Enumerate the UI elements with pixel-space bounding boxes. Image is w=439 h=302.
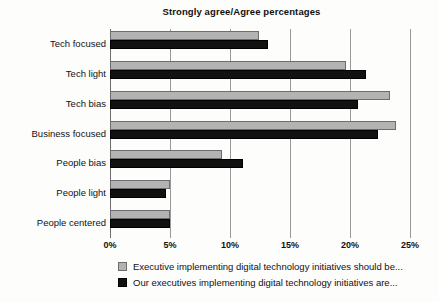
category-label: People centered (1, 218, 106, 228)
category-label: People light (1, 188, 106, 198)
bar (110, 40, 268, 49)
bar (110, 189, 166, 198)
bar (110, 150, 222, 159)
bar (110, 159, 243, 168)
bar-group (110, 178, 410, 208)
legend-swatch-icon (118, 262, 127, 271)
bar (110, 70, 366, 79)
bar (110, 121, 396, 130)
plot-area (110, 29, 410, 238)
legend-label: Our executives implementing digital tech… (133, 277, 398, 288)
gridline (410, 29, 411, 238)
legend-label: Executive implementing digital technolog… (133, 261, 403, 272)
chart-legend: Executive implementing digital technolog… (118, 258, 434, 290)
legend-item[interactable]: Our executives implementing digital tech… (118, 274, 434, 290)
bar-rows (110, 29, 410, 238)
value-tick-label: 20% (341, 240, 359, 250)
value-tick-label: 10% (221, 240, 239, 250)
category-label: People bias (1, 158, 106, 168)
bar-chart: Strongly agree/Agree percentages Tech fo… (0, 0, 439, 302)
bar (110, 31, 259, 40)
category-label: Tech focused (1, 39, 106, 49)
bar-group (110, 89, 410, 119)
value-tick-label: 5% (163, 240, 176, 250)
value-tick-label: 0% (103, 240, 116, 250)
bar (110, 210, 170, 219)
bar (110, 219, 170, 228)
bar-group (110, 59, 410, 89)
value-axis-tick-labels: 0%5%10%15%20%25% (110, 240, 410, 254)
bar (110, 130, 378, 139)
category-label: Business focused (1, 129, 106, 139)
chart-title: Strongly agree/Agree percentages (0, 6, 439, 17)
category-axis-labels: Tech focusedTech lightTech biasBusiness … (0, 29, 106, 238)
bar-group (110, 148, 410, 178)
legend-item[interactable]: Executive implementing digital technolog… (118, 258, 434, 274)
bar-group (110, 208, 410, 238)
value-tick-label: 25% (401, 240, 419, 250)
bar (110, 91, 390, 100)
category-label: Tech bias (1, 99, 106, 109)
bar (110, 100, 358, 109)
category-label: Tech light (1, 69, 106, 79)
bar (110, 180, 170, 189)
bar-group (110, 119, 410, 149)
bar (110, 61, 346, 70)
value-tick-label: 15% (281, 240, 299, 250)
bar-group (110, 29, 410, 59)
legend-swatch-icon (118, 278, 127, 287)
